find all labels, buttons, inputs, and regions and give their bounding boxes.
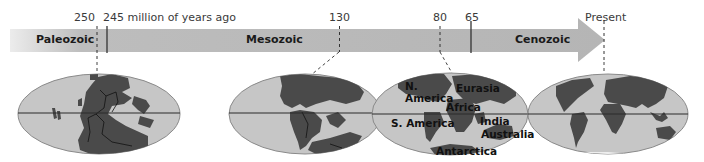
map-label-s-america: S. America [391,117,454,129]
map-label-antarctica: Antarctica [436,145,497,157]
tick-label-65: 65 [465,11,479,24]
globe-250-mya [18,73,180,156]
era-label-paleozoic: Paleozoic [36,33,94,47]
globe-present [528,74,688,158]
continental-drift-diagram: 250 245 million of years ago 130 80 65 P… [0,0,704,162]
leader-lines [97,52,604,75]
map-label-eurasia: Eurasia [456,82,500,94]
diagram-graphics [0,0,704,162]
tick-label-250: 250 [74,11,95,24]
map-label-n: N. [405,80,418,92]
tick-label-present: Present [585,11,626,24]
tick-label-130: 130 [329,11,350,24]
map-label-india: India [480,115,510,127]
tick-label-80: 80 [433,11,447,24]
tick-label-245: 245 million of years ago [103,11,236,24]
era-label-cenozoic: Cenozoic [515,33,570,47]
map-label-australia: Australia [481,128,534,140]
era-label-mesozoic: Mesozoic [246,33,303,47]
map-label-africa: Africa [446,101,481,113]
globe-130-mya [229,74,381,154]
